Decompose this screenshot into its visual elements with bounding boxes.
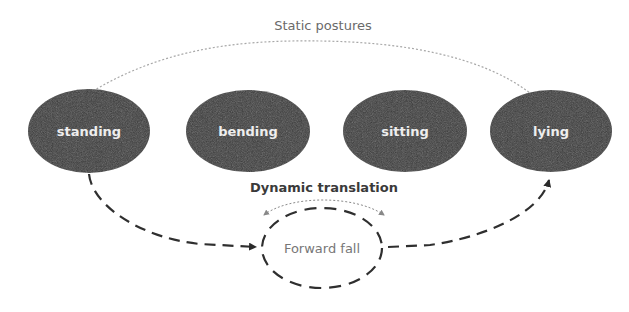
bending-label: bending [218, 124, 278, 139]
dynamic-translation-label: Dynamic translation [250, 180, 398, 195]
posture-node-bending[interactable]: bending [186, 90, 310, 172]
static-postures-title: Static postures [274, 18, 372, 33]
static-postures-arc [93, 41, 530, 93]
lying-label: lying [533, 124, 569, 139]
standing-label: standing [57, 124, 121, 139]
forward-fall-label: Forward fall [284, 241, 360, 256]
posture-diagram: Static postures standing bending sitting… [0, 0, 629, 312]
posture-node-lying[interactable]: lying [490, 90, 612, 172]
standing-to-fall-arrow [89, 174, 256, 247]
fall-to-lying-arrow [388, 180, 549, 247]
posture-node-sitting[interactable]: sitting [343, 90, 467, 172]
forward-fall-node[interactable]: Forward fall [262, 208, 382, 288]
sitting-label: sitting [381, 124, 429, 139]
posture-node-standing[interactable]: standing [28, 89, 150, 173]
dynamic-translation-arc [264, 200, 384, 215]
